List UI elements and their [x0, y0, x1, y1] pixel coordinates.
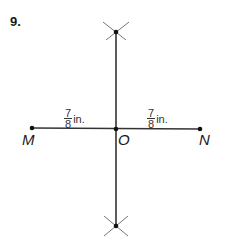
construction-diagram	[0, 0, 227, 242]
unit: in.	[156, 113, 168, 125]
problem-number: 9.	[10, 14, 21, 29]
point-bottom	[114, 224, 119, 229]
label-O: O	[118, 131, 130, 148]
point-top	[114, 30, 119, 35]
label-M: M	[22, 131, 35, 148]
label-N: N	[199, 131, 210, 148]
left-length-label: 78 in.	[64, 108, 85, 129]
denominator: 8	[65, 119, 71, 129]
right-length-label: 78 in.	[147, 108, 168, 129]
unit: in.	[73, 113, 85, 125]
denominator: 8	[148, 119, 154, 129]
point-M	[30, 126, 35, 131]
